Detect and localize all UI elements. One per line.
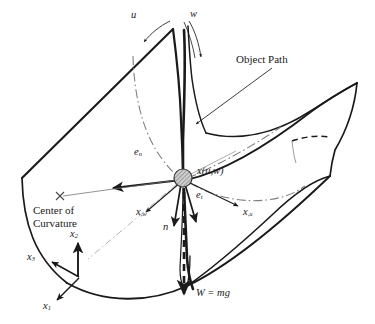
label-u: u — [131, 10, 136, 21]
label-x-w: x,w — [136, 207, 147, 218]
label-weight: W = mg — [196, 288, 230, 299]
surface-diagram — [0, 0, 375, 324]
label-center-of-curvature: Center of Curvature — [33, 204, 77, 230]
label-x-2: x2 — [70, 229, 78, 240]
center-of-curvature-line1: Center of — [33, 204, 77, 217]
label-e-n: en — [134, 147, 142, 158]
label-x-1: x1 — [43, 301, 51, 312]
label-w: w — [190, 9, 197, 20]
surface-point-marker — [174, 169, 192, 187]
label-x-3: x3 — [27, 252, 35, 263]
label-x-u: x,u — [243, 207, 253, 218]
label-e-t: et — [196, 190, 202, 201]
label-surface-point: x(u,w) — [197, 166, 224, 177]
canvas-background — [0, 0, 375, 324]
label-n: n — [163, 222, 168, 233]
label-object-path: Object Path — [236, 54, 288, 65]
